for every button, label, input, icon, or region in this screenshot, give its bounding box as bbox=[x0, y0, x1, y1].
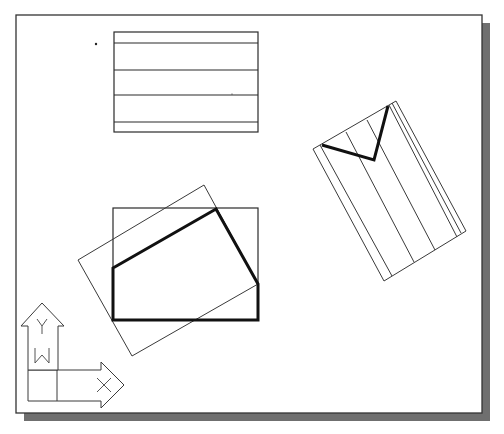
drawing-frame bbox=[16, 15, 482, 413]
stray-point bbox=[95, 43, 97, 45]
drawing-viewport[interactable]: Y W X bbox=[0, 0, 504, 434]
drawing-canvas[interactable] bbox=[0, 0, 504, 434]
